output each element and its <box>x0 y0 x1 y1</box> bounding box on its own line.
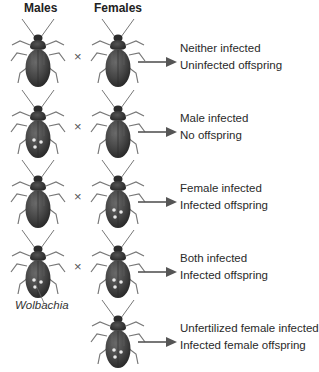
arrow-icon <box>138 336 178 348</box>
females-header: Females <box>94 1 142 15</box>
female-beetle-infected <box>88 158 148 232</box>
outcome-text: Infected offspring <box>180 267 268 284</box>
cross-symbol: × <box>74 120 82 133</box>
female-beetle-uninfected <box>88 17 148 91</box>
arrow-icon <box>138 196 178 208</box>
condition-text: Neither infected <box>180 40 282 57</box>
condition-text: Male infected <box>180 110 248 127</box>
condition-text: Both infected <box>180 250 268 267</box>
wolbachia-label: Wolbachia <box>15 299 69 311</box>
cross-symbol: × <box>74 50 82 63</box>
male-beetle-infected <box>8 228 68 302</box>
arrow-icon <box>138 266 178 278</box>
outcome-text: Uninfected offspring <box>180 57 282 74</box>
outcome-label: Neither infected Uninfected offspring <box>180 40 282 74</box>
female-beetle-infected <box>88 298 148 372</box>
female-beetle-uninfected <box>88 88 148 162</box>
condition-text: Female infected <box>180 180 268 197</box>
arrow-icon <box>138 56 178 68</box>
outcome-label: Unfertilized female infected Infected fe… <box>180 320 319 354</box>
male-beetle-uninfected <box>8 158 68 232</box>
outcome-label: Female infected Infected offspring <box>180 180 268 214</box>
males-header: Males <box>24 1 57 15</box>
outcome-text: Infected offspring <box>180 197 268 214</box>
condition-text: Unfertilized female infected <box>180 320 319 337</box>
cross-symbol: × <box>74 260 82 273</box>
male-beetle-uninfected <box>8 17 68 91</box>
female-beetle-infected <box>88 228 148 302</box>
outcome-text: No offspring <box>180 127 248 144</box>
arrow-icon <box>138 126 178 138</box>
outcome-text: Infected female offspring <box>180 337 319 354</box>
male-beetle-infected <box>8 88 68 162</box>
cross-symbol: × <box>74 190 82 203</box>
outcome-label: Both infected Infected offspring <box>180 250 268 284</box>
outcome-label: Male infected No offspring <box>180 110 248 144</box>
